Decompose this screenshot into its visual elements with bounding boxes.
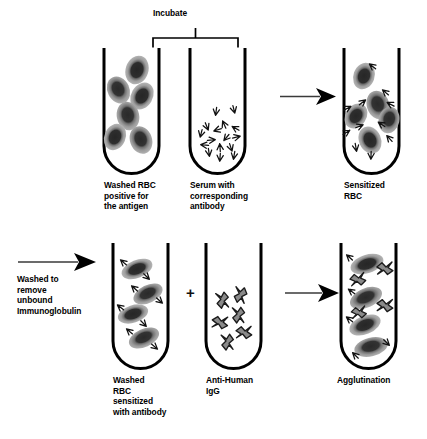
tube-serum-antibody: [190, 48, 245, 173]
diagram-canvas: Incubate Washed RBC positive for the ant…: [0, 0, 427, 439]
incubate-bracket: [153, 28, 238, 48]
incubate-label: Incubate: [153, 8, 187, 19]
tube-anti-human-igg: [206, 243, 261, 368]
antiglobulin-test-illustration: [0, 0, 427, 439]
incubate-arrow: [280, 88, 336, 105]
tube-label-washed-sensitized-rbc: Washed RBC sensitized with antibody: [113, 375, 166, 417]
tube-label-anti-human-igg: Anti-Human IgG: [206, 375, 253, 396]
add-aghg-arrow: [285, 284, 339, 302]
tube-label-serum-antibody: Serum with corresponding antibody: [190, 180, 248, 212]
tube-sensitized-rbc: [340, 48, 402, 173]
tube-washed-rbc-antigen: [100, 48, 159, 173]
wash-arrow: [18, 253, 96, 271]
tube-label-washed-rbc-antigen: Washed RBC positive for the antigen: [104, 180, 156, 212]
plus-sign: +: [186, 285, 195, 300]
tube-label-agglutination: Agglutination: [337, 375, 390, 386]
tube-label-sensitized-rbc: Sensitized RBC: [344, 180, 385, 201]
wash-step-text: Washed to remove unbound Immunoglobulin: [17, 274, 81, 316]
tube-agglutination: [341, 243, 396, 368]
tube-washed-sensitized-rbc: [113, 243, 168, 368]
